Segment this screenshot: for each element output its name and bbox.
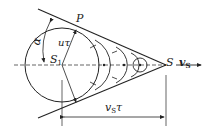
lower-cone-line (38, 65, 166, 118)
wavefront-arc-2 (95, 40, 110, 90)
source-dot (123, 64, 125, 66)
label-vS-sub: S (185, 61, 190, 70)
source-dot (103, 64, 105, 66)
source-dot (139, 64, 141, 66)
label-S1-sub: 1 (58, 59, 62, 67)
tick (112, 51, 117, 53)
label-u-tau: uτ (58, 38, 70, 48)
label-vS: vS (179, 57, 190, 69)
radius-arrow-lower (62, 65, 76, 102)
label-vS-tau-tail: τ (116, 101, 122, 114)
label-P: P (76, 13, 83, 24)
alpha-angle-arc (43, 22, 50, 62)
label-vS-tau: vSτ (105, 102, 122, 115)
label-S: S (166, 57, 174, 68)
label-S1-main: S (50, 53, 58, 66)
label-S1: S1 (50, 54, 62, 67)
tick (112, 77, 117, 79)
